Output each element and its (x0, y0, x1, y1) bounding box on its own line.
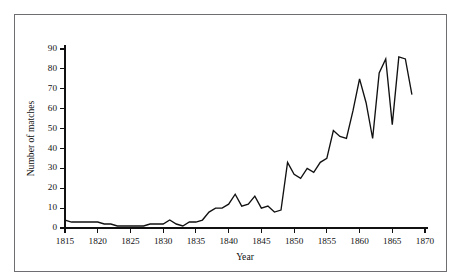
y-tick-label: 10 (48, 202, 58, 212)
y-tick-label: 0 (52, 222, 57, 232)
y-tick-label: 70 (48, 83, 58, 93)
x-tick-label: 1860 (350, 236, 369, 246)
x-tick-label: 1840 (219, 236, 238, 246)
x-tick-label: 1830 (154, 236, 173, 246)
line-chart: 0102030405060708090 18151820182518301835… (0, 0, 461, 280)
x-tick-label: 1870 (416, 236, 435, 246)
x-tick-label: 1850 (285, 236, 304, 246)
y-axis-tick-labels: 0102030405060708090 (48, 43, 58, 232)
data-series-line (65, 57, 412, 226)
x-tick-label: 1865 (383, 236, 402, 246)
figure-root: 0102030405060708090 18151820182518301835… (0, 0, 461, 280)
y-tick-label: 40 (48, 143, 58, 153)
x-tick-label: 1815 (56, 236, 75, 246)
chart-canvas: 0102030405060708090 18151820182518301835… (0, 0, 461, 280)
x-tick-label: 1835 (187, 236, 206, 246)
x-axis-ticks (65, 228, 425, 233)
x-tick-label: 1820 (89, 236, 108, 246)
y-axis-title: Number of matches (25, 100, 36, 176)
x-tick-label: 1845 (252, 236, 271, 246)
x-axis-title: Year (236, 251, 254, 262)
x-axis-tick-labels: 1815182018251830183518401845185018551860… (56, 236, 435, 246)
y-tick-label: 90 (48, 43, 58, 53)
y-axis-ticks (60, 49, 65, 228)
x-tick-label: 1855 (318, 236, 337, 246)
y-tick-label: 20 (48, 182, 58, 192)
y-tick-label: 80 (48, 63, 58, 73)
y-tick-label: 50 (48, 123, 58, 133)
y-tick-label: 30 (48, 162, 58, 172)
x-tick-label: 1825 (121, 236, 140, 246)
y-tick-label: 60 (48, 103, 58, 113)
